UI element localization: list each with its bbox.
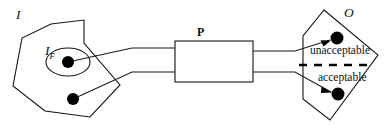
unacceptable-label: unacceptable bbox=[310, 45, 370, 57]
input-focus-label: IF bbox=[45, 42, 55, 61]
acceptable-label: acceptable bbox=[318, 72, 367, 84]
connector-other-to-process bbox=[73, 72, 175, 99]
output-region-label: O bbox=[344, 6, 354, 20]
output-unacceptable-point bbox=[331, 32, 344, 45]
connector-focus-to-process bbox=[68, 48, 175, 62]
process-flow-diagram: I IF P O unacceptable acceptable bbox=[0, 0, 386, 133]
input-region-polygon bbox=[13, 20, 120, 117]
input-focus-point bbox=[62, 56, 74, 68]
diagram-canvas bbox=[0, 0, 386, 133]
process-box bbox=[175, 41, 253, 82]
input-focus-label-subscript: F bbox=[50, 51, 56, 61]
arrowhead-acceptable-icon bbox=[321, 87, 332, 94]
input-region-label: I bbox=[16, 8, 21, 22]
output-acceptable-point bbox=[332, 88, 345, 101]
process-box-label: P bbox=[197, 26, 204, 38]
input-other-point bbox=[67, 93, 79, 105]
